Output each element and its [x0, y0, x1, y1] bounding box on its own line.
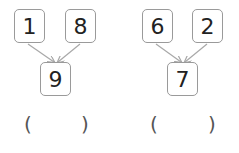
addend-box: 8 [65, 9, 96, 43]
answer-paren-open: ( [24, 112, 32, 136]
answer-paren-open: ( [150, 112, 158, 136]
sum-box: 7 [167, 62, 198, 96]
sum-box: 9 [40, 62, 71, 96]
addend-box: 1 [14, 9, 45, 43]
answer-paren-close: ) [208, 112, 216, 136]
answer-paren-close: ) [81, 112, 89, 136]
addend-box: 6 [142, 9, 173, 43]
addend-box: 2 [192, 9, 223, 43]
